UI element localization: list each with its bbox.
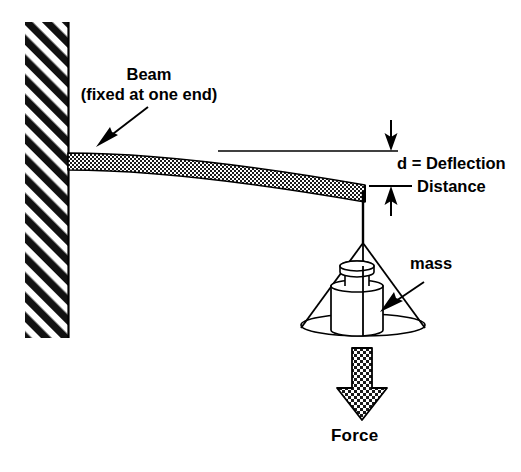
mass-label: mass <box>410 255 452 273</box>
force-label: Force <box>331 427 378 445</box>
beam-label: Beam <box>74 66 224 84</box>
cantilever-beam-diagram: Beam (fixed at one end) d = Deflection D… <box>0 0 521 472</box>
hatched-wall-icon <box>25 22 69 338</box>
beam-pointer-arrow-icon <box>96 107 148 147</box>
downward-block-arrow-icon <box>337 348 387 420</box>
deflection-label-line2: Distance <box>417 178 486 196</box>
lab-weight-icon <box>331 261 383 336</box>
beam-sublabel: (fixed at one end) <box>64 86 234 104</box>
mass-pointer-arrow-icon <box>380 282 424 312</box>
deflection-label-line1: d = Deflection <box>397 155 506 173</box>
stippled-beam-icon <box>68 153 365 202</box>
